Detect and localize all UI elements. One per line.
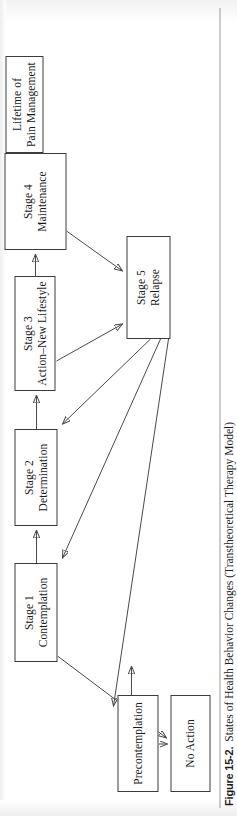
node-lifetime-line-0: Lifetime of <box>10 78 24 131</box>
rotated-figure-stage: Precontemplation No Action Stage 1 Conte… <box>0 0 237 816</box>
node-stage-3-action-new-lifestyle[interactable]: Stage 3 Action–New Lifestyle <box>14 276 55 391</box>
node-stage-3-line-1: Action–New Lifestyle <box>35 281 49 386</box>
caption-divider <box>219 8 220 808</box>
node-stage-4-maintenance[interactable]: Stage 4 Maintenance <box>4 153 66 250</box>
node-stage-4-line-1: Maintenance <box>35 171 49 232</box>
node-stage-2-line-1: Determination <box>36 444 50 512</box>
node-precontemplation-line-0: Precontemplation <box>131 702 145 785</box>
edge-stage5-to-stage2 <box>62 339 150 424</box>
caption-text: Figure 15-2.States of Health Behavior Ch… <box>222 422 234 806</box>
node-stage-5-line-0: Stage 5 <box>134 270 148 305</box>
node-stage-4-line-0: Stage 4 <box>21 184 35 219</box>
flowchart-diagram: Precontemplation No Action Stage 1 Conte… <box>0 0 237 816</box>
node-stage-5-line-1: Relapse <box>148 269 162 306</box>
figure-caption-body: States of Health Behavior Changes (Trans… <box>222 422 234 742</box>
edge-stage5-to-precontemplation <box>113 339 168 706</box>
figure-number: Figure 15-2. <box>222 747 234 806</box>
node-precontemplation[interactable]: Precontemplation <box>117 695 158 792</box>
node-no-action[interactable]: No Action <box>170 695 210 792</box>
edge-stage4-to-stage5 <box>66 231 122 271</box>
node-no-action-line-0: No Action <box>183 719 197 768</box>
node-stage-5-relapse[interactable]: Stage 5 Relapse <box>126 236 170 339</box>
node-stage-1-line-0: Stage 1 <box>22 595 36 630</box>
figure-page: Precontemplation No Action Stage 1 Conte… <box>0 0 237 816</box>
node-lifetime-line-1: Pain Management <box>24 62 38 147</box>
node-stage-3-line-0: Stage 3 <box>21 316 35 351</box>
figure-caption: Figure 15-2.States of Health Behavior Ch… <box>219 0 237 816</box>
edge-stage3-to-stage5 <box>56 324 122 361</box>
node-stage-1-line-1: Contemplation <box>36 578 50 648</box>
node-stage-2-line-0: Stage 2 <box>22 460 36 495</box>
node-stage-2-determination[interactable]: Stage 2 Determination <box>14 429 57 526</box>
node-stage-1-contemplation[interactable]: Stage 1 Contemplation <box>14 563 57 662</box>
edge-stage5-to-stage1 <box>62 339 160 558</box>
node-lifetime-of-pain-management[interactable]: Lifetime of Pain Management <box>5 56 43 153</box>
